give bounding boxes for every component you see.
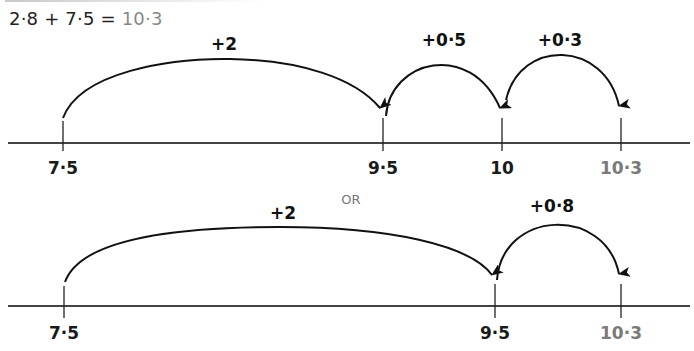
number-line-diagram: 7·5 9·5 10 10·3 +2 +0·5 +0·3 OR 7·5 9·5 …: [0, 0, 694, 351]
jump-label: +0·3: [538, 30, 582, 50]
point-label: 7·5: [48, 158, 78, 178]
jump-arc: [386, 65, 500, 116]
or-separator: OR: [341, 192, 360, 207]
point-label: 10·3: [600, 158, 642, 178]
jump-arc: [65, 227, 492, 282]
point-label: 9·5: [480, 323, 510, 343]
point-label: 7·5: [49, 323, 79, 343]
number-line-1: 7·5 9·5 10 10·3 +2 +0·5 +0·3: [8, 30, 690, 178]
jump-label: +0·5: [422, 30, 466, 50]
jump-label: +0·8: [530, 196, 574, 216]
point-label: 9·5: [368, 158, 398, 178]
number-line-2: 7·5 9·5 10·3 +2 +0·8: [8, 196, 690, 343]
point-label: 10·3: [600, 323, 642, 343]
jump-arc: [506, 55, 619, 106]
jump-arc: [497, 225, 619, 280]
jump-label: +2: [270, 203, 296, 223]
jump-arc: [63, 59, 380, 118]
jump-label: +2: [211, 34, 237, 54]
point-label: 10: [490, 158, 514, 178]
